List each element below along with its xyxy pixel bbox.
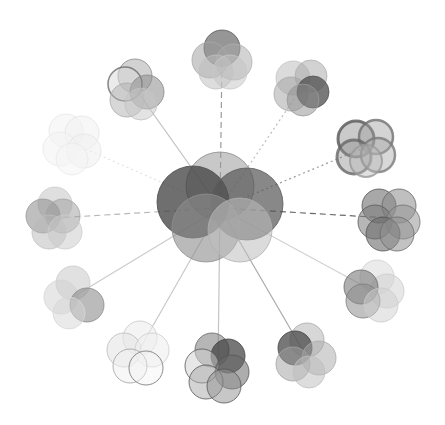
satellite-right-lower bbox=[344, 260, 404, 322]
satellite-bottom-right bbox=[276, 323, 336, 388]
satellite-top-left-circle-5 bbox=[125, 88, 157, 120]
satellite-bottom-circle-6 bbox=[207, 369, 241, 403]
satellite-top-right bbox=[274, 60, 329, 116]
satellite-bottom-right-circle-5 bbox=[293, 356, 325, 388]
satellite-left-lower bbox=[44, 266, 104, 329]
satellite-bottom-left bbox=[107, 321, 169, 385]
satellite-bottom-left-circle-5 bbox=[129, 351, 163, 385]
satellite-left-upper bbox=[43, 114, 101, 175]
satellite-left-lower-circle-4 bbox=[53, 297, 85, 329]
central-venn-cluster bbox=[157, 152, 283, 262]
diagram-canvas bbox=[0, 0, 445, 425]
central-circle-5 bbox=[208, 198, 272, 262]
central bbox=[157, 152, 283, 262]
satellite-right-lower-circle-5 bbox=[364, 288, 398, 322]
satellite-top bbox=[192, 30, 252, 89]
satellite-top-right-circle-5 bbox=[287, 84, 319, 116]
satellite-right-circle-6 bbox=[380, 217, 414, 251]
satellite-left bbox=[26, 187, 82, 249]
satellite-top-left bbox=[108, 59, 164, 120]
satellite-left-circle-5 bbox=[48, 215, 82, 249]
satellite-top-circle-5 bbox=[213, 55, 247, 89]
satellite-right bbox=[358, 189, 420, 251]
satellite-right-upper bbox=[337, 120, 395, 177]
radial-venn-diagram bbox=[0, 0, 445, 425]
satellite-left-upper-circle-5 bbox=[56, 143, 88, 175]
satellite-right-upper-circle-5 bbox=[350, 145, 382, 177]
satellite-bottom bbox=[185, 333, 249, 403]
